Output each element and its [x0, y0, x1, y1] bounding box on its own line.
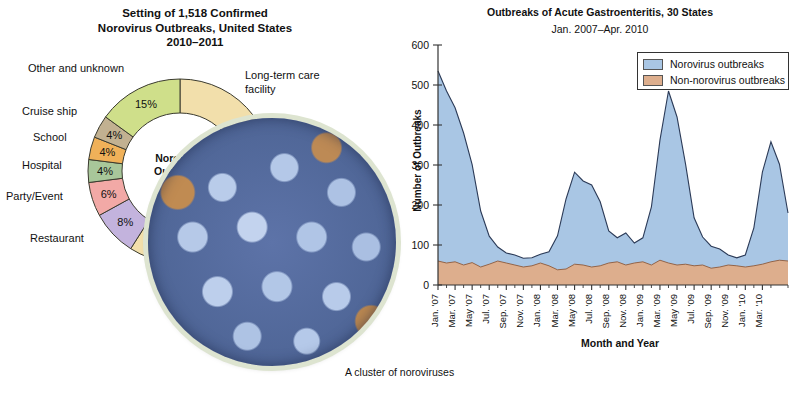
x-tick-label: Sep. '08 [600, 294, 611, 329]
legend-swatch-non-norovirus [643, 75, 663, 86]
y-tick-label: 300 [411, 159, 429, 171]
x-tick-label: Jan. '07 [429, 294, 440, 327]
donut-label-school: School [33, 131, 67, 143]
x-tick-label: Sep. '09 [702, 294, 713, 329]
legend-item-norovirus: Norovirus outbreaks [643, 56, 783, 72]
donut-segment-percent: 4% [106, 129, 122, 141]
x-tick-label: Nov. '09 [719, 294, 730, 328]
x-tick-label: Mar. '07 [446, 294, 457, 328]
donut-chart-title: Setting of 1,518 Confirmed Norovirus Out… [30, 6, 360, 50]
donut-segment-percent: 4% [99, 146, 115, 158]
y-tick-label: 100 [411, 239, 429, 251]
y-tick-label: 600 [411, 39, 429, 51]
donut-segment-percent: 6% [101, 188, 117, 200]
donut-label-restaurant: Restaurant [30, 232, 84, 244]
donut-segment-percent: 15% [135, 98, 157, 110]
x-tick-label: Mar. '10 [753, 294, 764, 328]
x-tick-label: Jan. '09 [634, 294, 645, 327]
x-tick-label: Jul. '07 [480, 294, 491, 324]
x-tick-label: Nov. '08 [617, 294, 628, 328]
x-tick-label: Sep. '07 [497, 294, 508, 329]
y-tick-label: 400 [411, 119, 429, 131]
x-tick-label: Jul. '08 [583, 294, 594, 324]
y-tick-label: 0 [423, 279, 429, 291]
x-tick-label: May '07 [463, 294, 474, 327]
donut-segment-percent: 8% [117, 216, 133, 228]
donut-label-long-term-care-facility: Long-term care facility [245, 68, 341, 96]
legend-swatch-norovirus [643, 59, 663, 70]
x-tick-label: May '08 [566, 294, 577, 327]
x-tick-label: Mar. '08 [549, 294, 560, 328]
legend-label-non-norovirus: Non-norovirus outbreaks [670, 74, 785, 86]
y-tick-label: 500 [411, 79, 429, 91]
x-tick-label: Jul. '09 [685, 294, 696, 324]
x-tick-label: Mar. '09 [651, 294, 662, 328]
x-tick-label: May '09 [668, 294, 679, 327]
area-chart-svg: 0100200300400500600 Jan. '07Mar. '07May … [400, 0, 798, 340]
donut-label-party-event: Party/Event [6, 190, 63, 202]
donut-segment-percent: 4% [97, 165, 113, 177]
norovirus-cluster-photo [148, 118, 396, 366]
infographic-page: Setting of 1,518 Confirmed Norovirus Out… [0, 0, 798, 399]
area-norovirus [438, 71, 788, 285]
legend-item-non-norovirus: Non-norovirus outbreaks [643, 72, 783, 88]
donut-title-line-3: 2010–2011 [30, 35, 360, 50]
donut-title-line-2: Norovirus Outbreaks, United States [30, 21, 360, 36]
x-tick-label: Jan. '10 [736, 294, 747, 327]
x-tick-label: Jan. '08 [531, 294, 542, 327]
donut-label-other-and-unknown: Other and unknown [28, 62, 124, 74]
area-series-group [438, 71, 788, 285]
x-tick-label: Nov. '07 [514, 294, 525, 328]
y-tick-label: 200 [411, 199, 429, 211]
legend-label-norovirus: Norovirus outbreaks [670, 58, 764, 70]
donut-label-hospital: Hospital [22, 159, 62, 171]
chart-legend: Norovirus outbreaks Non-norovirus outbre… [637, 52, 789, 90]
donut-title-line-1: Setting of 1,518 Confirmed [30, 6, 360, 21]
donut-label-cruise-ship: Cruise ship [22, 105, 77, 117]
line-norovirus [438, 71, 788, 258]
x-tick-group: Jan. '07Mar. '07May '07Jul. '07Sep. '07N… [429, 285, 788, 329]
